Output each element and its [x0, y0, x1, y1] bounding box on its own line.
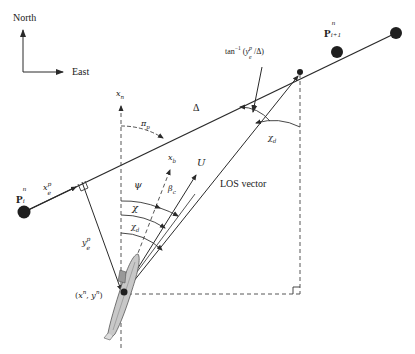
psi-label: ψ [134, 180, 142, 190]
atan-pointer [253, 67, 262, 112]
vessel-position-dot [121, 289, 128, 296]
waypoint-next-base: P [324, 27, 331, 39]
compass [23, 30, 63, 72]
los-point-dot [297, 69, 303, 75]
waypoint-next-dot [331, 46, 343, 58]
los-guidance-diagram [0, 0, 415, 354]
pi-p-label: πp [141, 120, 150, 128]
compass-north-label: North [13, 13, 36, 23]
atan-arc [240, 107, 270, 121]
waypoint-current-label: Pni [16, 194, 23, 205]
los-vector [125, 76, 298, 292]
vessel-icon [104, 254, 139, 340]
psi-arc [121, 201, 160, 208]
chi-arc [121, 215, 165, 228]
cross-track-label: ype [82, 239, 92, 247]
delta-label: Δ [193, 103, 199, 113]
chi-d-arc [121, 233, 162, 250]
beta-c-label: βc [168, 185, 176, 193]
chi-d-arc-upper [256, 121, 300, 127]
compass-east-label: East [72, 67, 89, 77]
xn-axis-label: xn [116, 90, 124, 98]
right-angle-marker [293, 287, 300, 294]
los-vector-label: LOS vector [220, 179, 266, 189]
beta-c-arc [160, 208, 178, 216]
chi-d-upper-label: χd [268, 134, 276, 142]
path-end-dot [390, 27, 402, 39]
waypoint-next-label: Pni+1 [324, 28, 331, 39]
speed-label: U [197, 158, 205, 168]
position-label: (xn, yn) [75, 292, 103, 300]
atan-label: tan−1 (ype/Δ) [225, 48, 264, 56]
along-track-label: xpe [43, 184, 53, 192]
chi-label: χ [132, 203, 138, 213]
waypoint-current-dot [18, 206, 31, 219]
waypoint-current-base: P [16, 193, 23, 205]
xb-axis-label: xb [168, 154, 176, 162]
chi-d-label: χd [131, 223, 139, 231]
